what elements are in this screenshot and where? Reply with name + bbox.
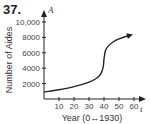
x-axis-title: Year (0↔1930) [62, 113, 123, 123]
chart: 200040006000800010,000 102030405060 A t … [0, 0, 150, 124]
x-tick-label: 60 [130, 102, 139, 111]
y-tick-label: 10,000 [16, 18, 41, 27]
y-tick-label: 6000 [22, 49, 40, 58]
y-axis-arrow-icon [41, 10, 47, 17]
data-curve [44, 35, 131, 92]
x-axis-arrow-icon [139, 96, 146, 102]
y-tick-label: 4000 [22, 64, 40, 73]
x-tick-label: 40 [100, 102, 109, 111]
y-ticks: 200040006000800010,000 [16, 18, 46, 89]
curve-arrow-icon [126, 33, 133, 39]
y-var-label: A [47, 5, 54, 15]
y-tick-label: 2000 [22, 80, 40, 89]
x-tick-label: 50 [115, 102, 124, 111]
x-var-label: t [140, 104, 143, 114]
y-axis-title: Number of Aides [4, 26, 14, 93]
x-tick-label: 20 [70, 102, 79, 111]
x-tick-label: 10 [55, 102, 64, 111]
y-tick-label: 8000 [22, 33, 40, 42]
x-tick-label: 30 [85, 102, 94, 111]
